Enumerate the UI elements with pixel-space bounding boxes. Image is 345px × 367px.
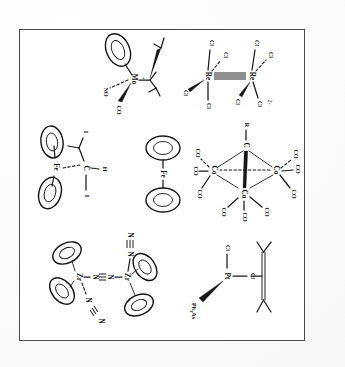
triple-bond-bridge	[99, 274, 106, 280]
label-apex-r: R	[244, 123, 250, 128]
label-cl-5: Cl	[223, 52, 229, 58]
cp-ring-right	[35, 175, 65, 212]
label-cl-1: Cl	[268, 52, 274, 58]
label-iodine-2: I	[83, 131, 89, 134]
bond-to-co	[118, 83, 131, 102]
label-metal-mo: Mo	[130, 74, 138, 85]
label-cl-2: Cl	[254, 40, 260, 46]
label-co-1: CO	[293, 149, 299, 158]
label-bridge-n-bottom: N	[91, 274, 99, 280]
bond-to-asph3	[199, 281, 223, 302]
label-metal-fe: Fe	[52, 163, 60, 171]
label-bridge-n-top: N	[106, 274, 114, 280]
bond-fe-to-c	[63, 165, 80, 168]
cp-ring-bottom-left	[49, 237, 85, 268]
cp-ring	[101, 30, 136, 70]
label-n-terminal-bottom-1: N	[84, 297, 92, 303]
label-n-terminal-top-2: N	[126, 232, 134, 238]
figure-plate-content: Mo + CO	[20, 30, 304, 340]
label-metal-co-top: Co	[272, 166, 280, 175]
cp-ring-left	[146, 136, 180, 160]
label-ligand-no: NO	[103, 87, 109, 96]
label-co-9: CO	[197, 189, 203, 198]
cp-ring-top-right	[121, 290, 157, 320]
label-metal-co-right: Co	[240, 190, 248, 199]
label-n-terminal-bottom-2: N	[97, 318, 105, 324]
label-asph3: Ph3As	[189, 303, 196, 320]
label-co-2: CO	[295, 164, 301, 173]
label-cl-left: Cl	[225, 245, 231, 251]
quadruple-bond	[214, 73, 246, 79]
label-n-terminal-top-1: N	[126, 251, 134, 257]
label-cl-3: Cl	[257, 101, 263, 107]
label-co-6: CO	[221, 207, 227, 216]
label-co-3: CO	[291, 189, 297, 198]
label-co-5: CO	[242, 212, 248, 221]
label-charge-2minus: 2-	[267, 99, 274, 104]
structure-re2cl8: Re Re 2- Cl Cl	[182, 26, 278, 126]
label-hydrogen: H	[102, 167, 108, 172]
scanned-page: Mo + CO	[0, 0, 345, 367]
structure-ferrocene: Fe	[131, 129, 195, 219]
label-iodine-1: I	[84, 195, 90, 198]
cp-ring-left	[39, 125, 65, 160]
cp-ring-bottom-right	[45, 273, 80, 309]
label-metal-zr-top: Zr	[123, 273, 131, 282]
label-co-4: CO	[264, 207, 270, 216]
label-apex-carbon: C	[242, 142, 250, 147]
label-metal-zr-bottom: Zr	[75, 273, 83, 282]
label-metal-pt: Pt	[223, 273, 231, 280]
structure-zr2-n2-bridge: Zr Zr N N	[49, 223, 161, 333]
label-metal-re-top: Re	[248, 72, 256, 80]
structure-cp2-fe-chi: Fe C H I I	[20, 124, 112, 220]
label-cl-7: Cl	[206, 103, 212, 109]
bond-to-no	[110, 80, 128, 88]
structure-pt-cl2-as-alkene: Pt Cl Cl Ph3As	[175, 226, 277, 328]
label-metal-fe: Fe	[159, 170, 167, 178]
triple-bond-terminal-top	[127, 240, 133, 248]
bond-c-to-co	[243, 151, 248, 188]
triple-bond-terminal-bottom	[90, 306, 98, 316]
cp-ring-right	[146, 188, 180, 212]
structure-mo-cp-co-no: Mo + CO	[90, 28, 170, 124]
tert-butyl-group	[139, 38, 164, 96]
label-co-7: CO	[195, 148, 201, 157]
structure-co3-cr-co9: R C Co Co Co CO	[192, 118, 300, 226]
label-metal-re-bottom: Re	[204, 72, 212, 80]
label-cl-4: Cl	[235, 99, 241, 105]
label-metal-co-bottom: Co	[210, 166, 218, 175]
label-ligand-co: CO	[116, 105, 122, 114]
label-cl-8: Cl	[183, 90, 189, 96]
figure-plate-border: Mo + CO	[19, 29, 305, 341]
label-cl-6: Cl	[209, 40, 215, 46]
label-co-8: CO	[193, 166, 199, 175]
label-center-carbon: C	[82, 165, 90, 170]
